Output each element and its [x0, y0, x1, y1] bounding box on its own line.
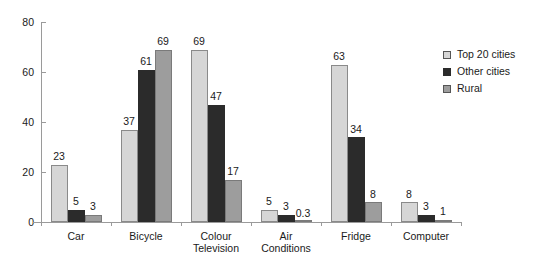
bar-group: 2353 [51, 22, 102, 222]
y-tick-label: 60 [0, 67, 34, 78]
bar-value-label: 8 [359, 189, 388, 200]
legend: Top 20 citiesOther citiesRural [443, 46, 515, 97]
bar [121, 130, 138, 223]
bar [85, 215, 102, 223]
x-tick-mark [391, 222, 392, 226]
bar-value-label: 23 [45, 151, 74, 162]
x-tick-mark [41, 222, 42, 226]
bar-chart: 020406080 2353376169694717530.363348831 … [0, 0, 536, 268]
x-category-label: AirConditions [246, 230, 326, 254]
x-tick-mark [111, 222, 112, 226]
x-category-label: Bicycle [106, 230, 186, 242]
bar-value-label: 0.3 [289, 208, 318, 219]
x-tick-mark [461, 222, 462, 226]
bar [348, 137, 365, 222]
x-category-label: Car [36, 230, 116, 242]
x-category-label: Computer [386, 230, 466, 242]
x-category-label: Fridge [316, 230, 396, 242]
x-tick-mark [251, 222, 252, 226]
bar-value-label: 47 [202, 91, 231, 102]
bar-value-label: 69 [185, 36, 214, 47]
bar [225, 180, 242, 223]
legend-label: Rural [457, 83, 482, 94]
bar [331, 65, 348, 223]
legend-item[interactable]: Top 20 cities [443, 46, 515, 63]
y-tick-label: 20 [0, 167, 34, 178]
x-axis-line [33, 222, 461, 223]
y-tick-label: 0 [0, 217, 34, 228]
legend-swatch-icon [443, 68, 451, 76]
bar-value-label: 63 [325, 51, 354, 62]
y-tick-label: 80 [0, 17, 34, 28]
bar [208, 105, 225, 223]
legend-label: Top 20 cities [457, 49, 515, 60]
legend-swatch-icon [443, 51, 451, 59]
bar-value-label: 1 [429, 206, 458, 217]
bar-group: 530.3 [261, 22, 312, 222]
bar-value-label: 69 [149, 36, 178, 47]
legend-label: Other cities [457, 66, 510, 77]
legend-item[interactable]: Other cities [443, 63, 515, 80]
x-tick-mark [181, 222, 182, 226]
bar [51, 165, 68, 223]
bar-group: 694717 [191, 22, 242, 222]
bar-value-label: 17 [219, 166, 248, 177]
y-tick-label: 40 [0, 117, 34, 128]
bar-value-label: 34 [342, 124, 371, 135]
bar-group: 376169 [121, 22, 172, 222]
bar-value-label: 8 [395, 189, 424, 200]
bar-value-label: 3 [79, 201, 108, 212]
bar [191, 50, 208, 223]
bar [435, 220, 452, 223]
bar [365, 202, 382, 222]
x-category-label: ColourTelevision [176, 230, 256, 254]
plot-area: 2353376169694717530.363348831 [41, 22, 461, 222]
bar-group: 63348 [331, 22, 382, 222]
legend-swatch-icon [443, 85, 451, 93]
bar [138, 70, 155, 223]
bar [295, 220, 312, 222]
x-tick-mark [321, 222, 322, 226]
legend-item[interactable]: Rural [443, 80, 515, 97]
bar [155, 50, 172, 223]
